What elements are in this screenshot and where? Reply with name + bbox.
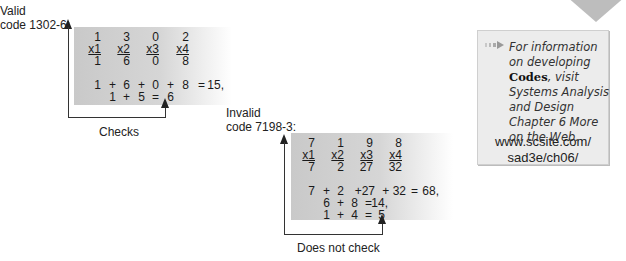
invalid-product: 27 [349,161,373,174]
connector-line [284,234,383,235]
info-text-before: For information on developing [509,40,598,69]
invalid-calculation-box: 7 1 9 8 x1 x2 x3 x4 7 2 27 32 7 + 2 +27 … [291,133,453,220]
arrow-up-icon [161,98,169,108]
arrow-bullet-icon [485,41,505,49]
invalid-code-label: Invalid code 7198-3: [226,106,296,134]
info-description: For information on developing Codes, vis… [509,40,609,145]
info-url[interactable]: www.scsite.com/ sad3e/ch06/ [478,134,608,166]
valid-calculation-box: 1 3 0 2 x1 x2 x3 x4 1 6 0 8 1 + 6 + 0 + … [74,27,232,105]
valid-product: 8 [165,55,189,68]
invalid-label-line1: Invalid [226,106,296,120]
connector-line [284,142,285,235]
arrow-up-icon [378,214,386,224]
invalid-product: 32 [378,161,402,174]
valid-product: 1 [77,55,101,68]
valid-code-label: Valid code 1302-6: [0,4,70,32]
valid-label-line2: code 1302-6: [0,18,70,32]
connector-line [68,27,69,118]
info-url-line1[interactable]: www.scsite.com/ [478,134,608,150]
valid-product: 6 [106,55,130,68]
valid-label-line1: Valid [0,4,70,18]
invalid-label-line2: code 7198-3: [226,120,296,134]
info-url-line2[interactable]: sad3e/ch06/ [478,150,608,166]
checks-label: Checks [99,125,139,139]
does-not-check-label: Does not check [297,241,380,255]
valid-sum-total: 15, [200,79,224,92]
valid-product: 0 [135,55,159,68]
connector-line [68,117,166,118]
decorative-triangle [566,0,626,22]
info-box: For information on developing Codes, vis… [477,30,609,165]
info-text-bold: Codes [509,70,548,84]
invalid-product: 2 [320,161,344,174]
invalid-sum-total: 68, [415,185,439,198]
invalid-product: 7 [291,161,315,174]
